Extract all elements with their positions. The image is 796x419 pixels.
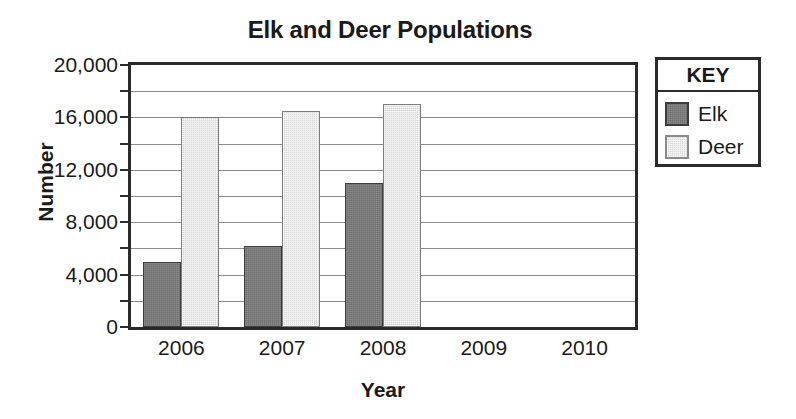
y-tick-mark <box>120 64 128 66</box>
y-tick-mark <box>120 116 128 118</box>
legend-items: ElkDeer <box>658 92 758 163</box>
bar-elk-2008 <box>345 183 383 327</box>
legend-item-elk[interactable]: Elk <box>665 97 758 130</box>
y-tick-mark <box>120 169 128 171</box>
y-tick-label: 12,000 <box>6 158 118 182</box>
chart-container: Elk and Deer Populations Number 20,00016… <box>0 0 796 419</box>
bar-deer-2007 <box>282 111 320 327</box>
x-tick-label: 2009 <box>460 336 507 360</box>
y-tick-label: 16,000 <box>6 105 118 129</box>
bar-elk-2006 <box>143 262 181 328</box>
y-tick-label: 20,000 <box>6 53 118 77</box>
y-tick-label: 8,000 <box>6 210 118 234</box>
legend-swatch-deer-icon <box>665 135 689 159</box>
x-axis-title: Year <box>128 378 638 402</box>
y-tick-label: 4,000 <box>6 263 118 287</box>
y-axis-tick-labels: 20,00016,00012,0008,0004,0000 <box>0 0 118 419</box>
x-tick-label: 2006 <box>158 336 205 360</box>
x-tick-label: 2007 <box>259 336 306 360</box>
bars-layer <box>131 65 635 327</box>
bar-deer-2006 <box>181 117 219 327</box>
y-tick-mark <box>120 300 128 302</box>
legend-item-deer[interactable]: Deer <box>665 130 758 163</box>
legend-label: Elk <box>698 102 727 126</box>
bar-deer-2008 <box>383 104 421 327</box>
y-tick-mark <box>120 247 128 249</box>
y-tick-mark <box>120 326 128 328</box>
legend-title: KEY <box>658 60 758 92</box>
y-tick-mark <box>120 143 128 145</box>
y-tick-mark <box>120 90 128 92</box>
y-tick-mark <box>120 221 128 223</box>
x-tick-label: 2008 <box>360 336 407 360</box>
chart-title: Elk and Deer Populations <box>140 16 640 44</box>
legend-label: Deer <box>698 135 744 159</box>
y-tick-label: 0 <box>6 315 118 339</box>
plot-area <box>128 62 638 330</box>
chart-legend: KEY ElkDeer <box>655 57 761 167</box>
x-tick-label: 2010 <box>561 336 608 360</box>
y-tick-mark <box>120 274 128 276</box>
y-tick-mark <box>120 195 128 197</box>
bar-elk-2007 <box>244 246 282 327</box>
legend-swatch-elk-icon <box>665 102 689 126</box>
